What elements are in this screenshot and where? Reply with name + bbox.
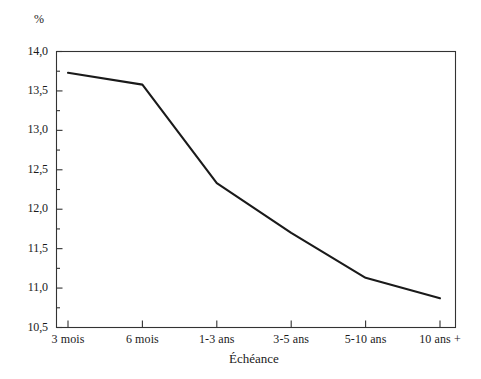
data-series-line [68,73,440,299]
x-axis-tick-label: 6 mois [126,332,159,347]
y-axis-tick-label: 12,0 [8,201,48,216]
y-axis-tick-label: 10,5 [8,320,48,335]
x-axis-tick-label: 5-10 ans [345,332,387,347]
y-axis-tick-label: 11,0 [8,280,48,295]
y-axis-tick-label: 14,0 [8,44,48,59]
y-axis-tick-label: 12,5 [8,162,48,177]
x-axis-title: Échéance [229,351,279,367]
chart-figure: % 14,013,513,012,512,011,511,010,5 3 moi… [0,0,481,379]
x-axis-tick-label: 1-3 ans [199,332,235,347]
y-axis-tick-label: 13,5 [8,83,48,98]
line-chart-plot [0,0,481,379]
y-axis-tick-label: 11,5 [8,241,48,256]
y-axis-tick-label: 13,0 [8,122,48,137]
x-axis-tick-label: 10 ans + [419,332,461,347]
x-axis-tick-label: 3 mois [52,332,85,347]
x-axis-tick-label: 3-5 ans [273,332,309,347]
